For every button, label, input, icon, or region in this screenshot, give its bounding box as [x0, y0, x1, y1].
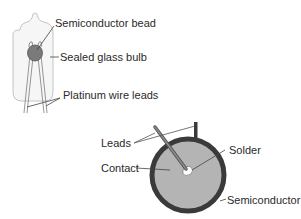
label-semiconductor: Semiconductor — [227, 194, 301, 206]
leader-semiconductor — [220, 199, 226, 201]
label-sealed-glass-bulb: Sealed glass bulb — [60, 51, 147, 63]
thermistor-diagram: Semiconductor bead Sealed glass bulb Pla… — [0, 0, 301, 219]
bead-thermistor: Semiconductor bead Sealed glass bulb Pla… — [13, 13, 159, 113]
label-solder: Solder — [229, 144, 261, 156]
lead-back — [194, 122, 198, 138]
label-platinum-wire-leads: Platinum wire leads — [63, 89, 159, 101]
semiconductor-bead — [28, 45, 43, 61]
label-semiconductor-bead: Semiconductor bead — [55, 17, 156, 29]
label-contact: Contact — [101, 162, 139, 174]
label-leads: Leads — [101, 137, 131, 149]
disc-thermistor: Leads Contact Solder Semiconductor — [101, 122, 301, 211]
